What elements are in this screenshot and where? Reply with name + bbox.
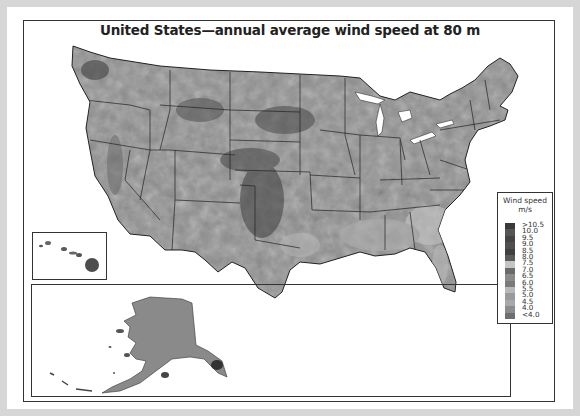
- alaska-map: [32, 285, 232, 398]
- wind-speed-legend: Wind speed m/s >10.510.09.59.08.58.07.57…: [497, 192, 553, 324]
- legend-swatch: [505, 313, 515, 319]
- legend-label: <4.0: [522, 311, 539, 318]
- alaska-inset: [31, 284, 511, 397]
- hawaii-map: [33, 233, 108, 281]
- legend-title: Wind speed m/s: [498, 196, 552, 214]
- hawaii-inset: [32, 232, 107, 280]
